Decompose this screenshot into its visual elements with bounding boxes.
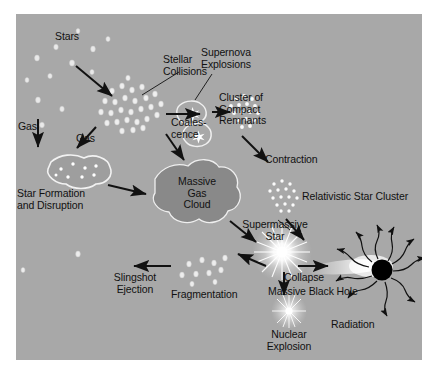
label-massive-black-hole: Massive Black Hole: [268, 286, 358, 298]
star-formation-blob: [48, 155, 111, 189]
label-supernova-explosions: SupernovaExplosions: [201, 47, 251, 70]
label-radiation: Radiation: [331, 319, 374, 331]
label-coalescence: Coales-cence: [171, 117, 206, 140]
stray-ejected-stars: [21, 251, 80, 273]
scattered-stars-group: [25, 29, 110, 128]
label-contraction: Contraction: [265, 154, 318, 166]
arrow-starformation-to-gascloud: [108, 185, 146, 194]
label-star-formation-and-disruption: Star Formationand Disruption: [17, 188, 85, 211]
nuclear-explosion-burst: [271, 293, 307, 329]
label-gas-left: Gas: [18, 121, 37, 133]
label-supermassive-star: SupermassiveStar: [232, 219, 318, 242]
figure-root: Stars StellarCollisions SupernovaExplosi…: [0, 0, 438, 375]
diagram-panel: Stars StellarCollisions SupernovaExplosi…: [16, 14, 422, 360]
label-relativistic-star-cluster: Relativistic Star Cluster: [302, 191, 408, 203]
relativistic-star-cluster-group: [268, 179, 298, 212]
label-massive-gas-cloud: MassiveGasCloud: [162, 176, 232, 211]
dense-star-cluster-group: [99, 75, 164, 134]
label-collapse: Collapse: [284, 272, 324, 284]
label-gas-right: Gas: [76, 133, 95, 145]
leader-supernova: [195, 74, 212, 100]
label-nuclear-explosion: NuclearExplosion: [249, 329, 329, 352]
label-stars: Stars: [55, 31, 79, 43]
label-cluster-compact-remnants: Cluster ofCompactRemnants: [219, 92, 266, 127]
fragmentation-cluster-group: [180, 255, 228, 287]
label-slingshot-ejection: SlingshotEjection: [95, 272, 175, 295]
massive-black-hole-disc: [372, 260, 393, 281]
label-fragmentation: Fragmentation: [171, 289, 237, 301]
